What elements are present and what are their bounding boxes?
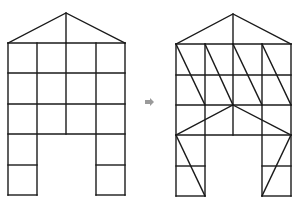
unbraced-frame — [8, 13, 125, 195]
diagram-canvas: House-shaped rectangular frame grid tran… — [0, 0, 299, 206]
right-arrow-icon — [145, 98, 154, 106]
braced-frame — [176, 14, 291, 196]
